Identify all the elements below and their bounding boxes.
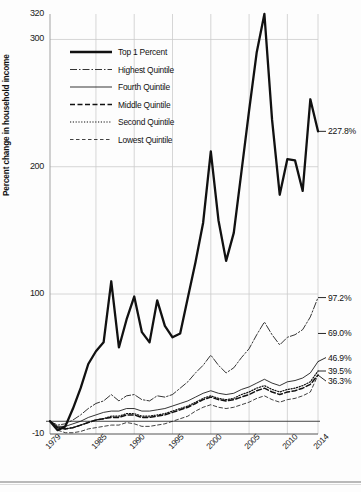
y-axis-tick: 100	[18, 288, 44, 298]
line-chart: Top 1 PercentHighest QuintileFourth Quin…	[0, 0, 361, 492]
series-line-top-1-percent	[50, 14, 318, 430]
chart-canvas: Top 1 PercentHighest QuintileFourth Quin…	[0, 0, 361, 492]
series-end-label: 46.9%	[328, 353, 351, 363]
legend-label: Middle Quintile	[118, 100, 171, 110]
series-line-lowest-quintile	[50, 375, 318, 433]
y-axis-title: Percent change in household income	[2, 182, 11, 196]
series-end-label: 36.3%	[328, 376, 351, 386]
bottom-rule	[0, 481, 361, 483]
series-end-label: 39.5%	[328, 366, 351, 376]
legend-label: Second Quintile	[118, 117, 175, 127]
y-axis-tick: -10	[18, 428, 44, 438]
legend-label: Top 1 Percent	[118, 47, 168, 57]
y-axis-tick: 320	[18, 8, 44, 18]
y-axis-tick: 200	[18, 161, 44, 171]
series-line-second-quintile	[50, 371, 318, 429]
chart-screenshot: Top 1 PercentHighest QuintileFourth Quin…	[0, 0, 361, 492]
y-axis-tick: 300	[18, 33, 44, 43]
legend-label: Highest Quintile	[118, 65, 174, 75]
series-end-label: 69.0%	[328, 328, 351, 338]
series-end-label: 227.8%	[328, 126, 356, 136]
end-label-leader	[318, 375, 326, 381]
series-end-label: 97.2%	[328, 293, 351, 303]
end-label-leader	[318, 358, 326, 362]
legend-label: Fourth Quintile	[118, 82, 170, 92]
legend-label: Lowest Quintile	[118, 135, 173, 145]
bottom-rule-secondary	[0, 484, 361, 485]
